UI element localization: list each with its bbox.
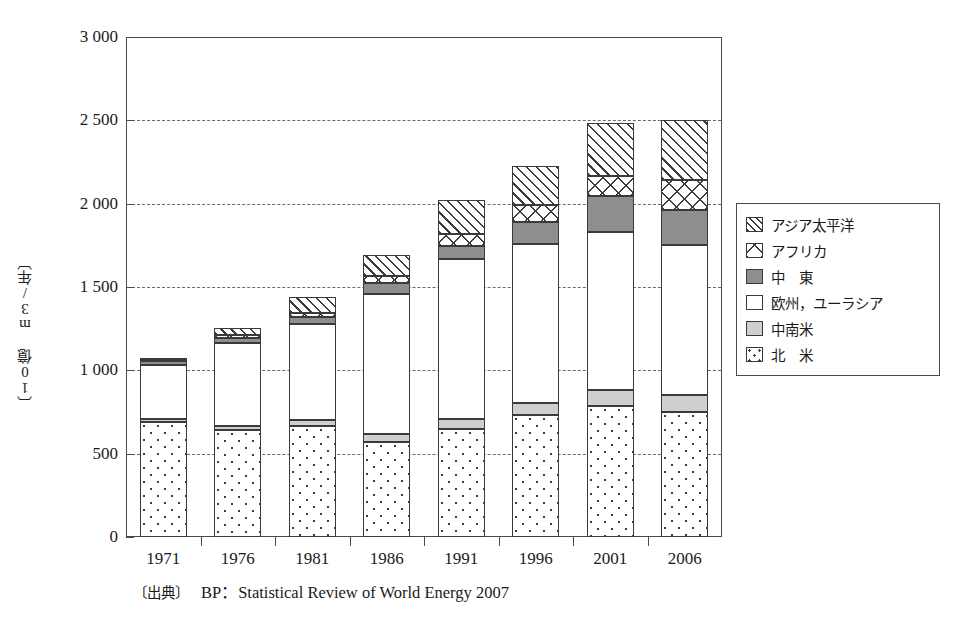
bar-segment-namerica <box>587 406 634 537</box>
bar-segment-namerica <box>289 426 336 537</box>
bar-segment-africa <box>363 276 410 283</box>
bar-segment-namerica <box>438 429 485 537</box>
legend-swatch-icon <box>746 295 763 310</box>
legend-item-label: 北 米 <box>771 344 813 365</box>
y-tick-mark <box>126 454 134 455</box>
bar-segment-mideast <box>661 210 708 245</box>
bar-1986 <box>363 37 410 537</box>
y-axis-tick-labels: 05001 0001 5002 0002 5003 000 <box>40 0 118 620</box>
bar-segment-asia <box>512 166 559 204</box>
x-tick-mark <box>573 537 574 546</box>
bar-segment-africa <box>214 335 261 338</box>
bar-segment-eurasia <box>587 232 634 390</box>
legend-item-label: 欧州，ユーラシア <box>771 292 883 313</box>
bar-segment-latam <box>587 390 634 406</box>
y-tick-mark <box>126 537 134 538</box>
x-tick-label: 2001 <box>570 549 650 569</box>
x-tick-label: 1971 <box>123 549 203 569</box>
bar-segment-eurasia <box>289 324 336 421</box>
legend: アジア太平洋アフリカ中 東欧州，ユーラシア中南米北 米 <box>736 203 940 376</box>
bar-segment-mideast <box>289 317 336 324</box>
y-tick-label: 2 000 <box>48 194 118 214</box>
bar-segment-mideast <box>214 338 261 343</box>
bar-segment-latam <box>363 434 410 442</box>
x-tick-label: 1981 <box>272 549 352 569</box>
bar-segment-mideast <box>363 283 410 294</box>
legend-item: 中南米 <box>746 315 931 341</box>
x-tick-mark <box>424 537 425 546</box>
bar-2001 <box>587 37 634 537</box>
bar-segment-africa <box>289 313 336 317</box>
bar-segment-asia <box>438 200 485 233</box>
bar-segment-namerica <box>363 442 410 537</box>
y-tick-mark <box>126 37 134 38</box>
x-tick-mark <box>499 537 500 546</box>
bar-segment-africa <box>661 180 708 210</box>
legend-item: 中 東 <box>746 263 931 289</box>
y-tick-mark <box>126 120 134 121</box>
bar-segment-latam <box>140 419 187 422</box>
bar-segment-namerica <box>661 412 708 537</box>
y-tick-mark <box>126 204 134 205</box>
bar-1976 <box>214 37 261 537</box>
bar-segment-eurasia <box>214 343 261 426</box>
legend-item: アジア太平洋 <box>746 211 931 237</box>
source-note: 〔出典〕BP：Statistical Review of World Energ… <box>133 579 509 603</box>
legend-item-label: 中南米 <box>771 318 813 339</box>
gas-production-stacked-bar-figure: 〔10億 m3/年〕 05001 0001 5002 0002 5003 000… <box>0 0 973 620</box>
x-tick-mark <box>275 537 276 546</box>
legend-item: アフリカ <box>746 237 931 263</box>
x-tick-label: 1996 <box>496 549 576 569</box>
bar-segment-mideast <box>140 361 187 365</box>
bar-segment-africa <box>587 176 634 196</box>
x-tick-mark <box>648 537 649 546</box>
x-tick-label: 1991 <box>421 549 501 569</box>
bar-segment-latam <box>438 419 485 429</box>
bar-segment-asia <box>214 328 261 336</box>
bar-segment-asia <box>661 120 708 180</box>
bar-segment-africa <box>438 234 485 247</box>
bar-segment-eurasia <box>363 294 410 434</box>
y-tick-label: 3 000 <box>48 27 118 47</box>
legend-item-label: アジア太平洋 <box>771 214 854 235</box>
legend-swatch-icon <box>746 243 763 258</box>
bar-segment-eurasia <box>512 244 559 403</box>
bar-segment-mideast <box>512 222 559 244</box>
legend-item: 北 米 <box>746 341 931 367</box>
legend-item-label: 中 東 <box>771 266 813 287</box>
bar-segment-mideast <box>438 246 485 259</box>
bar-segment-namerica <box>214 430 261 537</box>
bar-1971 <box>140 37 187 537</box>
bar-segment-asia <box>587 123 634 176</box>
y-tick-mark <box>126 287 134 288</box>
x-tick-label: 2006 <box>645 549 725 569</box>
bar-segment-latam <box>289 420 336 426</box>
y-tick-label: 1 000 <box>48 360 118 380</box>
bar-segment-eurasia <box>661 245 708 395</box>
y-tick-label: 1 500 <box>48 277 118 297</box>
bar-segment-asia <box>363 255 410 277</box>
bar-segment-namerica <box>512 415 559 537</box>
x-tick-label: 1986 <box>347 549 427 569</box>
bars-layer <box>126 37 722 537</box>
source-text: BP：Statistical Review of World Energy 20… <box>201 583 509 602</box>
bar-segment-asia <box>289 297 336 313</box>
bar-segment-latam <box>661 395 708 413</box>
x-tick-mark <box>201 537 202 546</box>
legend-swatch-icon <box>746 269 763 284</box>
legend-swatch-icon <box>746 321 763 336</box>
bar-segment-asia <box>140 358 187 361</box>
bar-segment-eurasia <box>438 259 485 419</box>
bar-2006 <box>661 37 708 537</box>
bar-segment-latam <box>214 426 261 430</box>
legend-swatch-icon <box>746 217 763 232</box>
x-tick-label: 1976 <box>198 549 278 569</box>
legend-item-label: アフリカ <box>771 240 827 261</box>
y-tick-label: 0 <box>48 527 118 547</box>
bar-segment-mideast <box>587 196 634 232</box>
bar-1981 <box>289 37 336 537</box>
x-tick-mark <box>350 537 351 546</box>
legend-swatch-icon <box>746 347 763 362</box>
bar-segment-africa <box>512 205 559 223</box>
bar-segment-namerica <box>140 422 187 537</box>
